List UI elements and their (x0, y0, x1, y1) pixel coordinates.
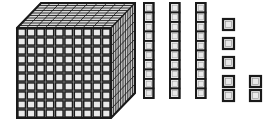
cube-front-cell (65, 74, 73, 81)
cube-front-cell (37, 47, 45, 54)
cube-front-cell (84, 47, 92, 54)
unit-cube-inner (226, 79, 232, 85)
cube-front-cell (37, 65, 45, 72)
cube-front-cell (18, 83, 26, 90)
cube-front-cell (27, 56, 35, 63)
cube-front-cell (18, 74, 26, 81)
tens-rod-cell-inner (172, 43, 177, 48)
cube-front-cell (103, 29, 111, 36)
cube-front-cell (56, 92, 64, 99)
cube-front-cell (65, 83, 73, 90)
cube-front-cell (27, 65, 35, 72)
cube-front-cell (27, 92, 35, 99)
cube-front-cell (18, 47, 26, 54)
cube-front-cell (65, 47, 73, 54)
tens-rod-cell-inner (198, 72, 203, 77)
cube-front-cell (46, 101, 54, 108)
cube-front-cell (93, 74, 101, 81)
unit-cube-inner (226, 22, 232, 28)
cube-front-cell (18, 56, 26, 63)
tens-rod-cell-inner (146, 62, 151, 67)
cube-front-cell (65, 65, 73, 72)
cube-front-cell (84, 101, 92, 108)
tens-rod-cell-inner (198, 53, 203, 58)
tens-rod-cell-inner (172, 34, 177, 39)
cube-front-cell (37, 29, 45, 36)
cube-front-cell (74, 83, 82, 90)
cube-front-cell (46, 74, 54, 81)
cube-front-cell (56, 65, 64, 72)
cube-front-cell (65, 92, 73, 99)
cube-front-cell (93, 110, 101, 117)
cube-front-cell (74, 29, 82, 36)
cube-front-cell (27, 38, 35, 45)
thousand-cube (17, 3, 135, 118)
tens-rod-cell-inner (146, 91, 151, 96)
cube-front-cell (74, 110, 82, 117)
unit-cube-inner (253, 93, 259, 99)
cube-front-cell (56, 83, 64, 90)
base-ten-blocks-figure: Base ten blocks place value model A base… (0, 0, 274, 127)
tens-rod (170, 3, 180, 98)
cube-front-cell (27, 83, 35, 90)
cube-front-cell (93, 38, 101, 45)
cube-front-cell (93, 92, 101, 99)
cube-front-cell (84, 56, 92, 63)
cube-front-cell (27, 101, 35, 108)
tens-rod-cell-inner (172, 72, 177, 77)
cube-front-cell (93, 83, 101, 90)
cube-front-cell (56, 29, 64, 36)
cube-front-cell (103, 47, 111, 54)
cube-front-cell (74, 92, 82, 99)
unit-cubes (223, 19, 261, 101)
cube-front-cell (18, 65, 26, 72)
cube-front-cell (65, 110, 73, 117)
tens-rod-cell-inner (198, 81, 203, 86)
cube-front-cell (46, 65, 54, 72)
cube-front-cell (93, 47, 101, 54)
cube-front-cell (37, 92, 45, 99)
cube-front-cell (74, 47, 82, 54)
cube-front-cell (46, 38, 54, 45)
cube-front-cell (56, 74, 64, 81)
cube-front-cell (37, 101, 45, 108)
tens-rod-cell-inner (172, 62, 177, 67)
tens-rod-cell-inner (198, 62, 203, 67)
cube-front-cell (37, 56, 45, 63)
cube-front-cell (84, 110, 92, 117)
cube-front-cell (65, 38, 73, 45)
tens-rod (144, 3, 154, 98)
tens-rod-cell-inner (198, 5, 203, 10)
cube-front-cell (37, 110, 45, 117)
tens-rod-cell-inner (198, 15, 203, 20)
cube-front-cell (84, 65, 92, 72)
unit-cube-inner (253, 79, 259, 85)
cube-front-cell (46, 110, 54, 117)
cube-front-cell (56, 47, 64, 54)
cube-front-cell (37, 74, 45, 81)
cube-front-cell (27, 47, 35, 54)
cube-front-cell (27, 74, 35, 81)
cube-front-cell (18, 101, 26, 108)
unit-cube-inner (226, 93, 232, 99)
cube-front-cell (18, 92, 26, 99)
cube-front-cell (84, 83, 92, 90)
cube-front-cell (46, 47, 54, 54)
unit-cube-column (223, 19, 234, 101)
tens-rod-cell-inner (146, 5, 151, 10)
cube-front-cell (27, 29, 35, 36)
cube-front-cell (18, 110, 26, 117)
cube-front-cell (84, 29, 92, 36)
tens-rod (196, 3, 206, 98)
cube-front-cell (103, 65, 111, 72)
cube-front-cell (56, 56, 64, 63)
cube-front-cell (56, 38, 64, 45)
tens-rod-cell-inner (146, 53, 151, 58)
cube-front-cell (93, 101, 101, 108)
cube-front-cell (46, 92, 54, 99)
cube-front-cell (103, 83, 111, 90)
tens-rod-cell-inner (198, 43, 203, 48)
tens-rod-cell-inner (146, 24, 151, 29)
cube-front-cell (93, 56, 101, 63)
cube-front-cell (93, 65, 101, 72)
